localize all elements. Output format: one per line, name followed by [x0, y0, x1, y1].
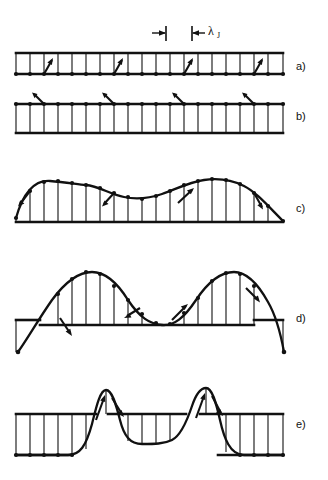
panel-e: e): [14, 388, 306, 457]
panel-label-a: a): [296, 60, 306, 72]
panel-d-nodes: [16, 270, 287, 354]
phase-arrow: [60, 318, 72, 336]
phase-arrow: [246, 288, 260, 303]
panel-a-rungs: [16, 53, 283, 74]
panel-c-nodes: [14, 177, 285, 223]
phase-arrow: [114, 58, 123, 74]
figure-root: λ J: [0, 0, 328, 480]
panel-a-arrows: [44, 58, 263, 74]
panel-label-e: e): [296, 418, 306, 430]
panel-e-phase-curve: [16, 388, 283, 455]
panel-label-c: c): [296, 202, 305, 214]
panel-b: b): [14, 93, 306, 134]
josephson-flux-penetration-figure: λ J: [0, 0, 328, 480]
scale-marker-group: λ J: [152, 24, 220, 41]
panel-label-d: d): [296, 312, 306, 324]
phase-arrow: [242, 93, 254, 105]
phase-arrow: [184, 58, 193, 74]
phase-arrow: [254, 58, 263, 74]
phase-arrow: [44, 58, 53, 74]
phase-arrow: [18, 191, 30, 207]
panel-a: a): [14, 53, 306, 76]
panel-d-rungs: [58, 272, 254, 325]
lambda-symbol: λ: [208, 24, 214, 38]
panel-c: c): [14, 177, 305, 223]
panel-c-phase-curve: [16, 179, 283, 221]
panel-b-rungs: [16, 104, 283, 133]
phase-arrow: [172, 93, 184, 105]
phase-arrow: [102, 93, 114, 105]
scale-left-arrow-head: [159, 30, 166, 36]
phase-arrow: [178, 188, 194, 203]
lambda-subscript: J: [217, 31, 220, 40]
scale-right-arrow-head: [192, 30, 199, 36]
panel-label-b: b): [296, 110, 306, 122]
phase-arrow: [102, 193, 114, 207]
panel-d: d): [16, 270, 306, 354]
phase-arrow: [32, 93, 44, 105]
panel-d-arrows: [60, 288, 260, 336]
